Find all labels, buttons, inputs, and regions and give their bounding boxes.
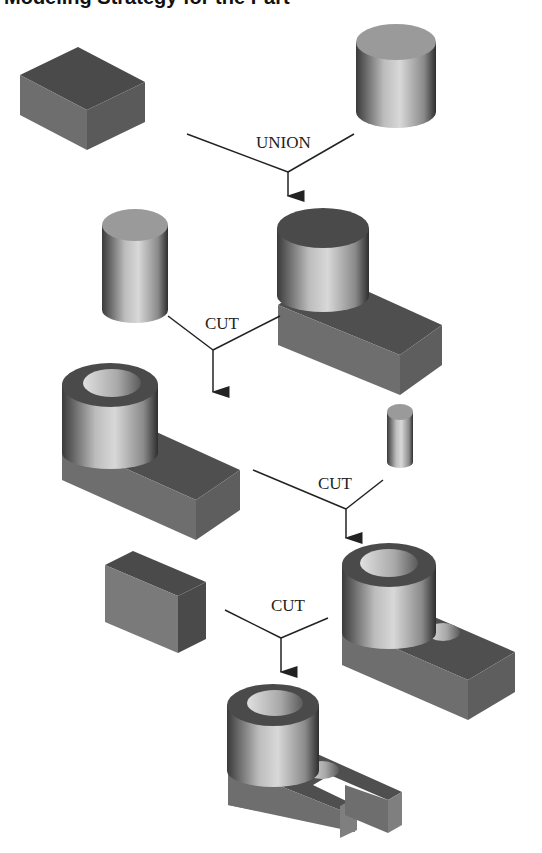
union-label: UNION bbox=[256, 133, 311, 153]
input-rectangular-block-2 bbox=[105, 551, 206, 653]
input-small-cylinder bbox=[387, 404, 413, 468]
input-cylinder-1 bbox=[356, 24, 436, 128]
cut-label-2: CUT bbox=[318, 474, 352, 494]
cut-label-3: CUT bbox=[271, 596, 305, 616]
result-part-with-hole bbox=[342, 543, 515, 720]
cut-operator-lines-3 bbox=[225, 610, 328, 672]
result-final-part-with-slot bbox=[227, 684, 402, 838]
cut-label-1: CUT bbox=[205, 314, 239, 334]
input-cylinder-2 bbox=[102, 209, 168, 323]
result-block-with-boss bbox=[277, 208, 442, 395]
input-rectangular-block-1 bbox=[20, 47, 145, 150]
